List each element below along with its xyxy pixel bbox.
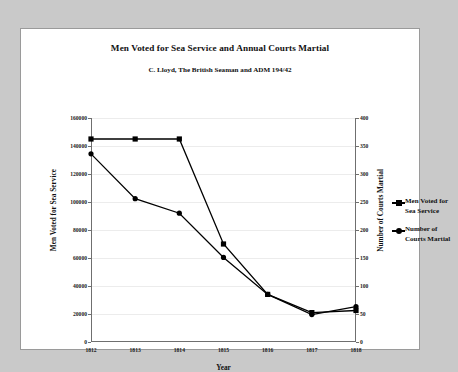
y-axis-right-tick-label: 50 (360, 311, 366, 317)
chart-subtitle: C. Lloyd, The British Seaman and ADM 194… (21, 66, 419, 74)
y-axis-right-tick-label: 250 (360, 199, 368, 205)
chart-figure-frame: Men Voted for Sea Service and Annual Cou… (20, 28, 420, 350)
data-point-marker[interactable] (88, 136, 93, 141)
y-axis-right-tick-label: 400 (360, 115, 368, 121)
chart-title: Men Voted for Sea Service and Annual Cou… (21, 43, 419, 53)
y-axis-left-tick-label: 100000 (70, 199, 87, 205)
data-point-marker[interactable] (133, 136, 138, 141)
x-axis-tick-label: 1817 (306, 347, 317, 353)
y-axis-left-tick-label: 40000 (73, 283, 87, 289)
y-axis-right-tick-label: 0 (360, 339, 363, 345)
y-axis-right-tick-mark (356, 286, 359, 287)
x-axis-tick-label: 1812 (85, 347, 96, 353)
y-axis-right-tick-mark (356, 314, 359, 315)
data-point-marker[interactable] (88, 151, 93, 156)
data-point-marker[interactable] (177, 136, 182, 141)
y-axis-left-tick-label: 80000 (73, 227, 87, 233)
y-axis-label-left: Men Voted for Sea Service (49, 169, 58, 251)
y-axis-right-tick-mark (356, 230, 359, 231)
legend-item-courts-martial[interactable]: Number of Courts Martial (392, 225, 458, 244)
legend-item-men-voted[interactable]: Men Voted for Sea Service (392, 197, 458, 216)
y-axis-label-right: Number of Courts Martial (376, 169, 385, 252)
y-axis-left-tick-label: 60000 (73, 255, 87, 261)
y-axis-left-tick-label: 120000 (70, 171, 87, 177)
y-axis-left-tick-label: 20000 (73, 311, 87, 317)
data-point-marker[interactable] (221, 241, 226, 246)
y-axis-left-tick-label: 160000 (70, 115, 87, 121)
y-axis-right-tick-mark (356, 202, 359, 203)
x-axis-tick-label: 1815 (218, 347, 229, 353)
y-axis-left-tick-label: 140000 (70, 143, 87, 149)
data-point-marker[interactable] (133, 196, 138, 201)
series-lines (91, 118, 356, 342)
y-axis-right-tick-mark (356, 146, 359, 147)
x-axis-tick-label: 1818 (350, 347, 361, 353)
data-point-marker[interactable] (309, 312, 314, 317)
series-line (91, 139, 356, 313)
y-axis-right-tick-label: 200 (360, 227, 368, 233)
y-axis-left-tick-mark (88, 342, 91, 343)
data-point-marker[interactable] (265, 292, 270, 297)
legend-label: Men Voted for Sea Service (405, 197, 448, 216)
legend-label: Number of Courts Martial (405, 225, 450, 244)
y-axis-right-tick-label: 350 (360, 143, 368, 149)
y-axis-right-tick-label: 150 (360, 255, 368, 261)
y-axis-right-tick-mark (356, 258, 359, 259)
x-axis-tick-label: 1813 (130, 347, 141, 353)
circle-marker-icon (392, 226, 405, 235)
y-axis-right-tick-label: 100 (360, 283, 368, 289)
x-axis-label: Year (91, 363, 356, 372)
y-axis-left-tick-label: 0 (84, 339, 87, 345)
y-axis-right-tick-mark (356, 118, 359, 119)
data-point-marker[interactable] (221, 255, 226, 260)
data-point-marker[interactable] (353, 304, 358, 309)
y-axis-right-tick-mark (356, 342, 359, 343)
x-axis-tick-label: 1814 (174, 347, 185, 353)
y-axis-right-tick-label: 300 (360, 171, 368, 177)
data-point-marker[interactable] (177, 211, 182, 216)
chart-legend: Men Voted for Sea Service Number of Cour… (392, 197, 458, 253)
x-axis-tick-label: 1816 (262, 347, 273, 353)
plot-area: 0200004000060000800001000001200001400001… (91, 118, 356, 342)
series-line (91, 154, 356, 315)
square-marker-icon (392, 198, 405, 207)
y-axis-right-tick-mark (356, 174, 359, 175)
